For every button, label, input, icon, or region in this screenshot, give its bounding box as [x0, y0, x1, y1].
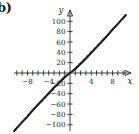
y-tick-label: 80 [56, 27, 66, 36]
x-tick-label: 4 [89, 77, 94, 86]
figure-panel: b) −8−448 10080604020−20−40−60−80−100 y … [0, 0, 139, 134]
plot-area: −8−448 10080604020−20−40−60−80−100 y x [0, 0, 139, 134]
y-tick-label: −100 [46, 120, 66, 129]
y-tick-label: 20 [56, 58, 66, 67]
y-axis-label: y [58, 5, 64, 15]
x-tick-label: 8 [110, 77, 115, 86]
x-axis-tick-labels: −8−448 [22, 77, 115, 86]
y-tick-label: 60 [56, 38, 66, 47]
y-tick-label: 100 [52, 17, 66, 26]
y-tick-label: 40 [56, 48, 66, 57]
y-tick-label: −60 [50, 100, 66, 109]
x-tick-label: −8 [22, 77, 33, 86]
y-tick-label: −80 [50, 110, 66, 119]
x-axis-label: x [128, 76, 133, 86]
